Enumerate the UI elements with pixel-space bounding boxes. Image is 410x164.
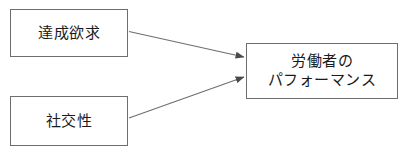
node-sociability-label: 社交性 [46, 112, 93, 131]
node-achievement: 達成欲求 [10, 9, 128, 57]
node-worker-performance-label-line1: 労働者の [291, 52, 353, 71]
node-worker-performance-label-line2: パフォーマンス [268, 71, 377, 90]
edge-sociability-to-performance [129, 77, 244, 118]
edge-achievement-to-performance [129, 32, 244, 58]
node-achievement-label: 達成欲求 [38, 24, 100, 43]
node-worker-performance: 労働者の パフォーマンス [246, 43, 398, 99]
node-sociability: 社交性 [10, 96, 128, 146]
path-diagram: 達成欲求 社交性 労働者の パフォーマンス [0, 0, 410, 164]
